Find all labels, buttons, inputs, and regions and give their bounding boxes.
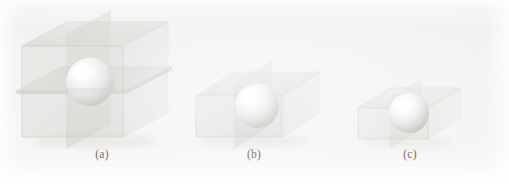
panel-b-sphere-highlight: [241, 92, 257, 105]
panel-a-sphere-plane-overlap: [66, 88, 114, 93]
panel-a-sphere-highlight: [72, 66, 90, 80]
panel-a-sphere: [66, 58, 114, 106]
panel-c-sphere-body: [389, 93, 429, 133]
panel-c-3d-scene: [348, 0, 480, 150]
panel-b-sphere: [235, 84, 279, 128]
panel-c: (c): [348, 0, 480, 184]
panel-b-caption: (b): [234, 148, 274, 160]
panel-b-3d-scene: [182, 0, 332, 150]
panel-c-sphere-highlight: [395, 100, 410, 112]
panel-a-caption: (a): [82, 148, 122, 160]
panel-c-sphere: [389, 93, 429, 133]
panel-a-3d-scene: [0, 0, 190, 150]
panel-b: (b): [182, 0, 332, 184]
panel-c-caption: (c): [390, 148, 430, 160]
panel-b-sphere-body: [235, 84, 279, 128]
figure-canvas: (a): [0, 0, 509, 184]
panel-a: (a): [0, 0, 190, 184]
panel-a-sphere-body: [66, 58, 114, 106]
